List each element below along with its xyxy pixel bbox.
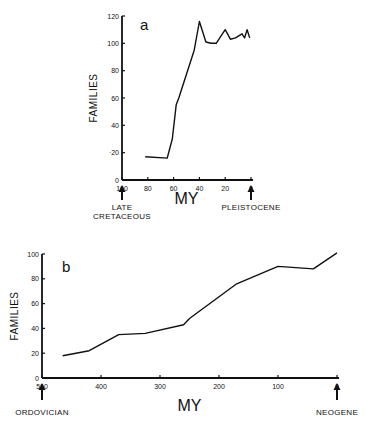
y-tick-label: 20 bbox=[31, 350, 39, 357]
y-tick-label: 60 bbox=[31, 300, 39, 307]
era-annotation: PLEISTOCENE bbox=[221, 203, 280, 212]
x-tick-label: 200 bbox=[213, 383, 225, 390]
chart-a: 0·20406080100120100806040200FAMILIESMYaL… bbox=[88, 13, 281, 222]
panel-label: b bbox=[62, 258, 70, 275]
data-line-families bbox=[145, 22, 250, 159]
y-tick-label: 0 bbox=[115, 177, 119, 184]
x-tick-label: 20 bbox=[221, 185, 229, 192]
y-axis-label: FAMILIES bbox=[88, 73, 99, 122]
chart-b: 0204060801005004003002001000FAMILIESMYbO… bbox=[9, 251, 358, 418]
data-line-families bbox=[63, 253, 337, 356]
y-axis-label: FAMILIES bbox=[9, 291, 20, 340]
figure: 0·20406080100120100806040200FAMILIESMYaL… bbox=[0, 0, 376, 431]
y-tick-label: 80 bbox=[111, 67, 119, 74]
era-annotation: LATE bbox=[112, 203, 133, 212]
y-tick-label: 40 bbox=[111, 122, 119, 129]
x-tick-label: 80 bbox=[144, 185, 152, 192]
x-tick-label: 400 bbox=[95, 383, 107, 390]
era-annotation: ORDOVICIAN bbox=[15, 408, 69, 417]
x-axis-label: MY bbox=[178, 397, 202, 414]
x-tick-label: 300 bbox=[154, 383, 166, 390]
y-tick-label: 100 bbox=[107, 40, 119, 47]
y-tick-label: 100 bbox=[27, 251, 39, 258]
x-tick-label: 100 bbox=[272, 383, 284, 390]
x-axis-label: MY bbox=[175, 190, 199, 207]
y-tick-label: 120 bbox=[107, 13, 119, 20]
y-tick-label: 40 bbox=[31, 325, 39, 332]
era-annotation: CRETACEOUS bbox=[93, 212, 151, 221]
era-annotation: NEOGENE bbox=[316, 408, 358, 417]
y-tick-label: 60 bbox=[111, 95, 119, 102]
y-tick-label: 0 bbox=[35, 375, 39, 382]
y-tick-label: ·20 bbox=[109, 149, 119, 156]
panel-label: a bbox=[140, 16, 149, 33]
y-tick-label: 80 bbox=[31, 275, 39, 282]
